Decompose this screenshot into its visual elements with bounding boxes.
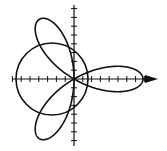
axes <box>12 5 158 146</box>
polar-graph <box>0 0 167 151</box>
x-axis-arrow-icon <box>145 75 158 83</box>
polar-plot-canvas <box>0 0 167 151</box>
